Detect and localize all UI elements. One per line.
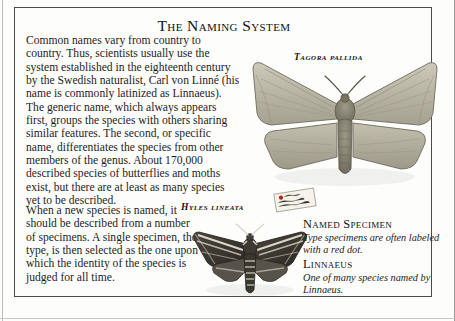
page-trim-line-left (2, 0, 3, 321)
species-label-hyles-lineata: Hyles lineata (181, 201, 244, 212)
body-paragraph-1: Common names vary from country to countr… (26, 34, 241, 207)
content-frame: The Naming System Common names vary from… (14, 7, 432, 297)
caption-linnaeus-text: One of many species named by Linnaeus. (303, 272, 449, 295)
page: The Naming System Common names vary from… (0, 0, 455, 321)
body-paragraph-2: When a new species is named, it should b… (26, 204, 202, 284)
body-paragraph-1-container: Common names vary from country to countr… (26, 34, 241, 207)
page-title: The Naming System (15, 17, 433, 35)
caption-named-specimen-heading: Named Specimen (303, 218, 449, 231)
page-trim-line-bottom (0, 318, 455, 319)
caption-named-specimen-text: Type specimens are often labeled with a … (303, 232, 449, 255)
caption-named-specimen: Named Specimen Type specimens are often … (303, 218, 449, 255)
species-label-tagora-pallida: Tagora pallida (294, 51, 363, 62)
caption-linnaeus-heading: Linnaeus (303, 258, 449, 271)
hawk-moth-specimen-icon (191, 214, 309, 300)
body-paragraph-2-container: When a new species is named, it should b… (26, 204, 202, 284)
moth-specimen-icon (247, 45, 443, 195)
caption-linnaeus: Linnaeus One of many species named by Li… (303, 258, 449, 295)
specimen-tag-icon (271, 187, 319, 213)
